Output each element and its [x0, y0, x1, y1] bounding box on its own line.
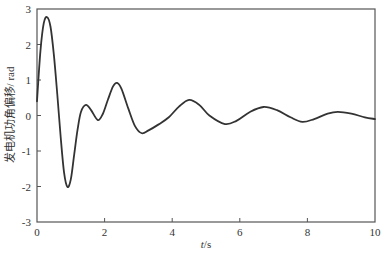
- x-tick-label: 6: [237, 226, 243, 238]
- y-axis-ticks: -3-2-10123: [22, 3, 41, 228]
- y-tick-label: -1: [22, 145, 31, 157]
- data-series-line: [37, 17, 375, 187]
- x-axis-title: t/s: [201, 238, 211, 250]
- x-axis-unit: /s: [204, 238, 211, 250]
- x-tick-label: 4: [169, 226, 175, 238]
- y-tick-label: -2: [22, 181, 31, 193]
- x-tick-label: 10: [370, 226, 382, 238]
- x-tick-label: 8: [305, 226, 311, 238]
- x-tick-label: 0: [34, 226, 40, 238]
- x-axis-ticks: 0246810: [34, 218, 381, 238]
- chart-canvas: 0246810 -3-2-10123 t/s 发电机功角偏移/ rad: [0, 0, 388, 258]
- y-tick-label: 2: [26, 39, 32, 51]
- y-tick-label: -3: [22, 216, 32, 228]
- y-tick-label: 3: [26, 3, 32, 15]
- x-tick-label: 2: [102, 226, 108, 238]
- y-tick-label: 0: [26, 110, 32, 122]
- y-tick-label: 1: [26, 74, 32, 86]
- y-axis-title: 发电机功角偏移/ rad: [3, 66, 16, 163]
